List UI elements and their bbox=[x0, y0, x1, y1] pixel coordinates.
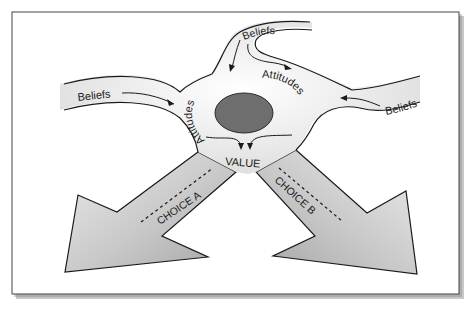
values-choice-diagram: Beliefs Beliefs Beliefs Attitudes Attitu… bbox=[0, 0, 474, 311]
value-label: VALUE bbox=[225, 155, 261, 169]
core-value-ellipse bbox=[215, 93, 273, 133]
